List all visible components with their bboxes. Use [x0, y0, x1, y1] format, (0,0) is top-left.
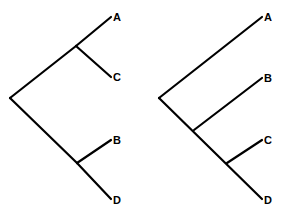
- right-tree-branch: [159, 98, 262, 199]
- tip-label-d: D: [113, 194, 121, 206]
- left-tree-branch: [77, 163, 111, 199]
- tip-label-b: B: [113, 134, 121, 146]
- left-tree-branch: [76, 46, 111, 77]
- left-tree-branch: [10, 98, 77, 163]
- right-tree: A B C D: [159, 11, 272, 206]
- left-tree-branch: [77, 140, 111, 163]
- tip-label-a: A: [264, 11, 272, 23]
- left-tree-branch: [76, 17, 111, 46]
- tip-label-d: D: [264, 194, 272, 206]
- right-tree-branch: [159, 17, 262, 98]
- cladogram-canvas: A C B D A B C D: [0, 0, 286, 216]
- left-tree: A C B D: [10, 11, 121, 206]
- right-tree-branch: [194, 78, 262, 130]
- right-tree-branch: [227, 140, 262, 163]
- tip-label-c: C: [113, 71, 121, 83]
- tip-label-b: B: [264, 72, 272, 84]
- left-tree-branch: [10, 46, 76, 98]
- tip-label-c: C: [264, 134, 272, 146]
- tip-label-a: A: [113, 11, 121, 23]
